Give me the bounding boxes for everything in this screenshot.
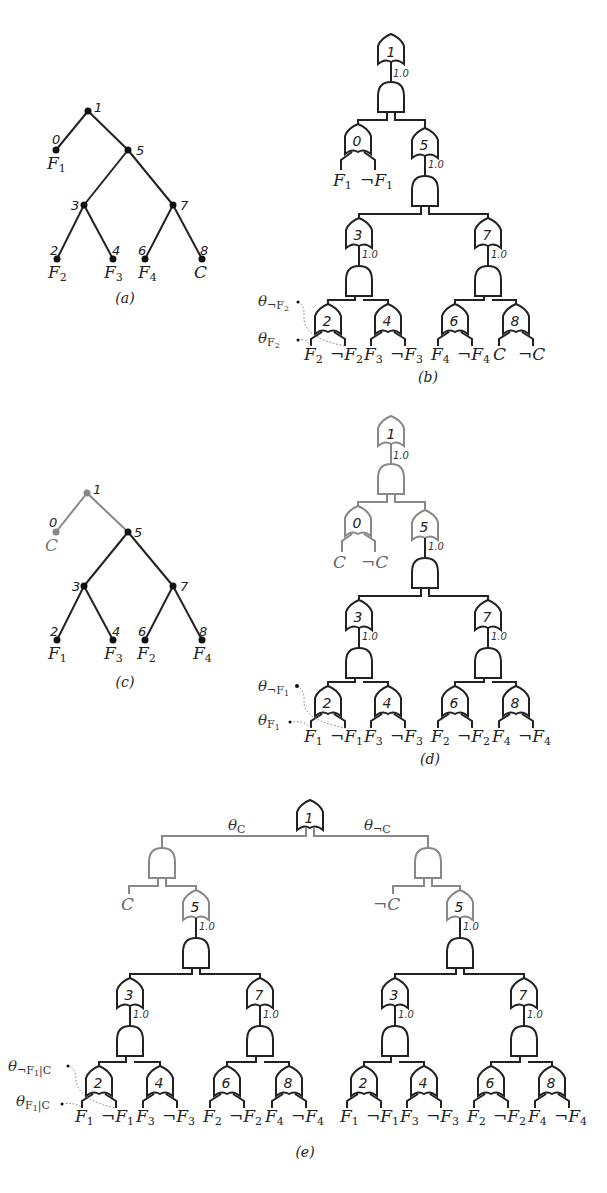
node-label-7: 7 xyxy=(180,579,189,594)
node-label-4: 4 xyxy=(112,243,120,258)
node-label-5: 5 xyxy=(136,143,144,158)
node-label-8: 8 xyxy=(199,624,207,639)
svg-text:1.0: 1.0 xyxy=(428,159,444,170)
node-label-5: 5 xyxy=(134,525,142,540)
svg-text:6: 6 xyxy=(222,1075,231,1091)
and-gate-right xyxy=(415,848,441,878)
svg-text:1.0: 1.0 xyxy=(133,1009,149,1020)
caption-c: (c) xyxy=(116,674,135,690)
and-gate xyxy=(382,1026,408,1056)
svg-text:1.0: 1.0 xyxy=(428,541,444,552)
svg-text:8: 8 xyxy=(511,695,520,711)
leaf-F4: F4 xyxy=(192,643,212,665)
theta-C: θC xyxy=(228,816,245,836)
literal-notF2: ¬F2 xyxy=(457,726,490,748)
svg-text:8: 8 xyxy=(284,1075,293,1091)
caption-b: (b) xyxy=(418,369,438,385)
leaf-F1: F1 xyxy=(46,153,66,175)
literal-F2: F2 xyxy=(202,1106,222,1128)
svg-text:4: 4 xyxy=(155,1075,164,1091)
literal-C: C xyxy=(121,894,134,914)
literal-notF4: ¬F4 xyxy=(291,1106,324,1128)
literal-F3: F3 xyxy=(399,1106,419,1128)
literal-notF4: ¬F4 xyxy=(457,344,490,366)
svg-text:8: 8 xyxy=(511,313,520,329)
svg-text:2: 2 xyxy=(323,695,332,711)
svg-text:7: 7 xyxy=(519,987,528,1003)
svg-text:1: 1 xyxy=(387,44,396,60)
leaf-F1: F1 xyxy=(47,643,67,665)
left-subtree: 5 1.0 3 1.0 7 1.0 2 4 xyxy=(8,890,324,1128)
node-label-7: 7 xyxy=(180,198,189,213)
and-gate xyxy=(447,938,473,968)
leaf-F3: F3 xyxy=(103,262,123,284)
literal-notF2: ¬F2 xyxy=(330,344,363,366)
vtree-node-1 xyxy=(84,490,91,497)
theta-F1: θF1 xyxy=(258,711,280,732)
svg-text:1.0: 1.0 xyxy=(393,450,409,461)
svg-text:0: 0 xyxy=(353,133,362,149)
and-gate xyxy=(511,1026,537,1056)
literal-notC: ¬C xyxy=(373,894,400,914)
svg-text:2: 2 xyxy=(323,313,332,329)
svg-text:1.0: 1.0 xyxy=(199,921,215,932)
svg-text:3: 3 xyxy=(390,987,399,1003)
svg-text:1.0: 1.0 xyxy=(491,631,507,642)
literal-F4: F4 xyxy=(491,726,511,748)
svg-text:1: 1 xyxy=(387,426,396,442)
svg-text:6: 6 xyxy=(486,1075,495,1091)
theta-not-F1: θ¬F1 xyxy=(258,677,289,698)
and-gate xyxy=(475,648,501,678)
svg-text:5: 5 xyxy=(191,899,200,915)
literal-F1: F1 xyxy=(303,726,323,748)
node-label-1: 1 xyxy=(94,100,102,115)
theta-not-C: θ¬C xyxy=(364,816,391,836)
and-gate xyxy=(346,648,372,678)
and-gate xyxy=(183,938,209,968)
panel-a-vtree: 1 0 5 3 7 2 4 6 8 F1 F2 F3 F4 C (a) xyxy=(46,100,208,306)
svg-text:7: 7 xyxy=(483,609,492,625)
node-label-3: 3 xyxy=(72,579,80,594)
and-gate xyxy=(412,176,438,206)
svg-text:7: 7 xyxy=(483,227,492,243)
panel-e-circuit: 1 θC θ¬C C ¬C 5 1.0 3 1.0 xyxy=(8,800,587,1160)
literal-F3: F3 xyxy=(363,344,383,366)
svg-text:7: 7 xyxy=(255,987,264,1003)
vtree-node-5 xyxy=(125,147,132,154)
literal-notF3: ¬F3 xyxy=(390,726,423,748)
node-label-2: 2 xyxy=(50,624,58,639)
svg-text:0: 0 xyxy=(353,515,362,531)
node-label-2: 2 xyxy=(50,243,58,258)
svg-text:1.0: 1.0 xyxy=(362,631,378,642)
right-subtree: 5 1.0 3 1.0 7 1.0 2 4 xyxy=(339,890,587,1128)
svg-text:2: 2 xyxy=(359,1075,368,1091)
theta-not-F1-given-C: θ¬F1|C xyxy=(8,1057,51,1078)
and-gate xyxy=(412,558,438,588)
svg-text:8: 8 xyxy=(547,1075,556,1091)
and-gate-left xyxy=(149,848,175,878)
leaf-C: C xyxy=(194,262,207,282)
svg-text:4: 4 xyxy=(383,313,392,329)
literal-F4: F4 xyxy=(264,1106,284,1128)
literal-notF3: ¬F3 xyxy=(390,344,423,366)
node-label-0: 0 xyxy=(52,132,60,147)
leaf-F2: F2 xyxy=(136,643,156,665)
svg-text:5: 5 xyxy=(420,137,429,153)
literal-notF4: ¬F4 xyxy=(554,1106,587,1128)
literal-notC: ¬C xyxy=(361,552,388,572)
leaf-F4: F4 xyxy=(137,262,157,284)
literal-F1: F1 xyxy=(339,1106,359,1128)
and-gate xyxy=(378,464,404,494)
node-label-1: 1 xyxy=(93,482,101,497)
and-gate xyxy=(475,266,501,296)
literal-notF2: ¬F2 xyxy=(229,1106,262,1128)
svg-text:3: 3 xyxy=(125,987,134,1003)
panel-b-circuit: 1 1.0 0 F1 ¬F1 5 1.0 3 1.0 7 1.0 xyxy=(258,34,545,385)
theta-F2: θF2 xyxy=(258,329,280,350)
vtree-node-3 xyxy=(81,583,88,590)
svg-text:6: 6 xyxy=(450,313,459,329)
svg-text:3: 3 xyxy=(354,227,363,243)
literal-F4: F4 xyxy=(527,1106,547,1128)
literal-notF2: ¬F2 xyxy=(493,1106,526,1128)
vtree-node-3 xyxy=(81,202,88,209)
